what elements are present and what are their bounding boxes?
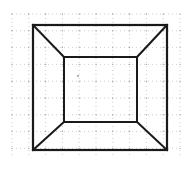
grid-dot [11,30,12,31]
grid-dot [129,97,130,98]
grid-dot [95,47,96,48]
grid-dot [163,114,164,115]
grid-dot [79,30,80,31]
grid-dot [79,148,80,149]
grid-dot [28,30,29,31]
grid-dot [129,131,130,132]
grid-dot [179,13,180,14]
grid-dot [79,81,80,82]
grid-dot [28,81,29,82]
grid-dot [163,131,164,132]
grid-dot [62,131,63,132]
grid-dot [146,13,147,14]
grid-dot [112,13,113,14]
grid-dot [146,30,147,31]
grid-dot [79,13,80,14]
grid-dot [45,97,46,98]
grid-dot [146,81,147,82]
grid-dot [28,64,29,65]
grid-dot [179,64,180,65]
grid-dot [129,47,130,48]
grid-dot [163,13,164,14]
grid-dot [146,114,147,115]
grid-dot [45,30,46,31]
grid-dot [129,13,130,14]
grid-dot [163,97,164,98]
grid-dot [112,114,113,115]
grid-dot [129,114,130,115]
grid-dot [112,64,113,65]
grid-dot [28,47,29,48]
grid-dot [95,114,96,115]
grid-dot [45,64,46,65]
grid-dot [11,64,12,65]
grid-dot [45,81,46,82]
grid-dot [62,148,63,149]
grid-dot [112,47,113,48]
grid-dot [45,148,46,149]
grid-dot [11,148,12,149]
grid-dot [62,13,63,14]
grid-dot [163,64,164,65]
grid-dot [95,81,96,82]
grid-dot [129,148,130,149]
grid-dot [45,13,46,14]
grid-dot [95,13,96,14]
grid-dot [45,114,46,115]
grid-dot [146,148,147,149]
grid-dot [62,47,63,48]
grid-dot [62,30,63,31]
grid-dot [179,131,180,132]
grid-dot [79,97,80,98]
grid-dot [95,30,96,31]
grid-dot [179,30,180,31]
grid-dot [11,131,12,132]
grid-dot [62,97,63,98]
grid-dot [28,97,29,98]
grid-dot [28,114,29,115]
grid-dot [28,13,29,14]
grid-dot [28,148,29,149]
grid-dot [62,114,63,115]
grid-dot [79,114,80,115]
grid-dot [179,114,180,115]
grid-dot [112,81,113,82]
grid-dot [28,131,29,132]
grid-dot [129,81,130,82]
grid-dot [95,97,96,98]
grid-dot [179,81,180,82]
grid-dot [11,13,12,14]
grid-dot [146,64,147,65]
grid-dot [62,64,63,65]
grid-dot [163,81,164,82]
grid-dot [112,97,113,98]
grid-dot [163,47,164,48]
grid-dot [11,47,12,48]
grid-dot [11,81,12,82]
grid-dot [11,114,12,115]
grid-dot [129,64,130,65]
center-dot-mark [77,75,79,77]
grid-dot [95,64,96,65]
grid-dot [95,148,96,149]
grid-dot [112,30,113,31]
grid-dot [112,148,113,149]
grid-dot [95,131,96,132]
grid-dot [179,97,180,98]
grid-dot [179,148,180,149]
grid-dot [112,131,113,132]
grid-dot [62,81,63,82]
figure-canvas [0,0,191,178]
grid-dot [79,47,80,48]
grid-dot [146,97,147,98]
grid-dot [45,131,46,132]
perspective-box-diagram [0,0,191,178]
grid-dot [179,47,180,48]
grid-dot [129,30,130,31]
grid-dot [45,47,46,48]
grid-dot [79,131,80,132]
grid-dot [11,97,12,98]
grid-dot [79,64,80,65]
